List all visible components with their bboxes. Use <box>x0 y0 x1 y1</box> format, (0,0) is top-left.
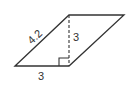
right-angle-marker <box>59 58 69 66</box>
parallelogram-diagram: 4.2 3 3 <box>0 0 132 86</box>
base-label: 3 <box>38 70 44 82</box>
slanted-side-label: 4.2 <box>25 27 44 46</box>
height-label: 3 <box>73 31 79 43</box>
